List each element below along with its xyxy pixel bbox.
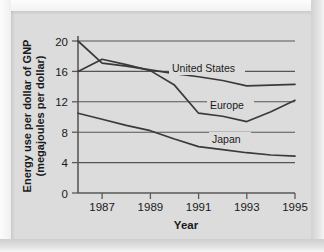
series-label-united-states-group: United States xyxy=(169,61,245,75)
series-label-europe: Europe xyxy=(210,99,244,111)
series-label-japan-group: Japan xyxy=(209,132,251,146)
y-axis-title-line1: Energy use per dollar of GNP xyxy=(21,40,33,193)
x-tick-label-1995: 1995 xyxy=(282,201,308,213)
x-tick-label-1991: 1991 xyxy=(186,201,212,213)
series-label-europe-group: Europe xyxy=(207,98,254,112)
x-tick-label-1993: 1993 xyxy=(234,201,260,213)
y-tick-label-0: 0 xyxy=(62,188,68,200)
x-axis xyxy=(78,193,295,199)
y-axis-title: Energy use per dollar of GNP (megajoules… xyxy=(21,40,46,193)
figure-frame: 20 16 12 8 4 0 1987 1989 1991 1993 1995 … xyxy=(0,0,324,252)
gridlines xyxy=(78,41,295,163)
y-axis xyxy=(72,36,78,193)
series-label-japan: Japan xyxy=(212,133,241,145)
series-lines xyxy=(78,41,295,156)
x-tick-label-1987: 1987 xyxy=(89,201,115,213)
y-axis-title-line2: (megajoules per dollar) xyxy=(34,55,46,176)
y-tick-label-12: 12 xyxy=(55,96,68,108)
series-label-united-states: United States xyxy=(172,62,235,74)
y-tick-labels: 20 16 12 8 4 0 xyxy=(55,36,68,200)
x-tick-label-1989: 1989 xyxy=(138,201,164,213)
y-tick-label-16: 16 xyxy=(55,66,68,78)
x-axis-title: Year xyxy=(174,219,199,231)
x-tick-labels: 1987 1989 1991 1993 1995 xyxy=(89,201,307,213)
y-tick-label-20: 20 xyxy=(55,36,68,48)
y-tick-label-4: 4 xyxy=(62,157,69,169)
series-line-japan xyxy=(78,113,295,156)
line-chart: 20 16 12 8 4 0 1987 1989 1991 1993 1995 … xyxy=(0,0,324,252)
y-tick-label-8: 8 xyxy=(62,127,68,139)
